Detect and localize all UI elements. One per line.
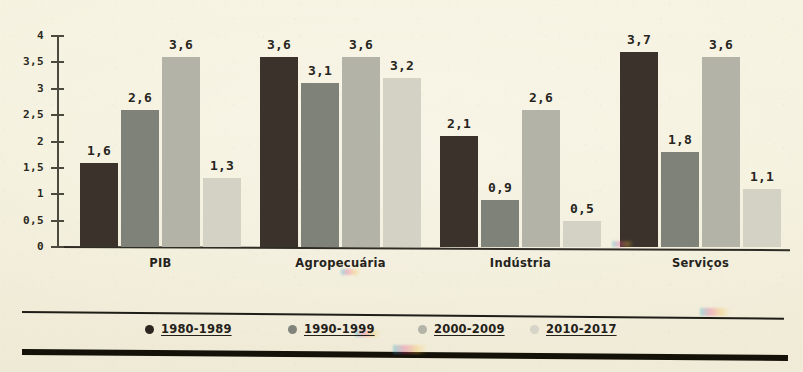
bar <box>522 110 560 247</box>
legend-circle-marker-icon <box>418 325 427 334</box>
chart-legend: 1980-19891990-19992000-20092010-2017 <box>0 322 803 344</box>
bar <box>702 57 740 247</box>
legend-label: 1980-1989 <box>161 322 232 336</box>
bar-series-container <box>0 0 803 247</box>
legend-item-2010-2017[interactable]: 2010-2017 <box>530 322 617 336</box>
category-label-agropecuria: Agropecuária <box>240 256 441 270</box>
bar-value-label: 3,7 <box>612 33 666 46</box>
bar <box>301 83 339 247</box>
bar <box>620 52 658 247</box>
bar-value-label: 2,6 <box>514 91 568 104</box>
bar <box>383 78 421 247</box>
scan-artifact <box>700 308 730 316</box>
plot-area: 00,511,522,533,54 PIBAgropecuáriaIndústr… <box>0 0 803 300</box>
bar-value-label: 1,1 <box>735 170 789 183</box>
bar <box>563 221 601 247</box>
bar-value-label: 2,1 <box>432 117 486 130</box>
bar <box>260 57 298 247</box>
bar-value-label: 1,8 <box>653 133 707 146</box>
bar <box>80 163 118 247</box>
bar-value-label: 0,5 <box>555 202 609 215</box>
bar-value-label: 3,6 <box>154 38 208 51</box>
bar-value-label: 1,3 <box>195 159 249 172</box>
bar <box>121 110 159 247</box>
bar <box>342 57 380 247</box>
bar <box>661 152 699 247</box>
legend-item-1990-1999[interactable]: 1990-1999 <box>288 322 375 336</box>
bar-value-label: 2,6 <box>113 91 167 104</box>
category-label-indstria: Indústria <box>420 256 621 270</box>
bar-value-label: 3,2 <box>375 59 429 72</box>
category-label-pib: PIB <box>60 256 261 270</box>
legend-label: 1990-1999 <box>304 322 375 336</box>
bar-value-label: 3,6 <box>334 38 388 51</box>
bar <box>203 178 241 247</box>
bar <box>162 57 200 247</box>
legend-circle-marker-icon <box>145 325 154 334</box>
legend-circle-marker-icon <box>288 325 297 334</box>
bar-value-label: 0,9 <box>473 181 527 194</box>
legend-top-rule <box>22 311 784 319</box>
bar <box>743 189 781 247</box>
bar <box>481 200 519 247</box>
legend-label: 2000-2009 <box>434 322 505 336</box>
grouped-bar-chart: 00,511,522,533,54 PIBAgropecuáriaIndústr… <box>0 0 803 372</box>
category-label-servios: Serviços <box>600 256 801 270</box>
bar-value-label: 3,6 <box>694 38 748 51</box>
bar-value-label: 3,6 <box>252 38 306 51</box>
legend-item-1980-1989[interactable]: 1980-1989 <box>145 322 232 336</box>
legend-item-2000-2009[interactable]: 2000-2009 <box>418 322 505 336</box>
bar-value-label: 1,6 <box>72 144 126 157</box>
bar-value-label: 3,1 <box>293 64 347 77</box>
legend-label: 2010-2017 <box>546 322 617 336</box>
legend-bottom-rule <box>22 349 788 361</box>
legend-circle-marker-icon <box>530 325 539 334</box>
